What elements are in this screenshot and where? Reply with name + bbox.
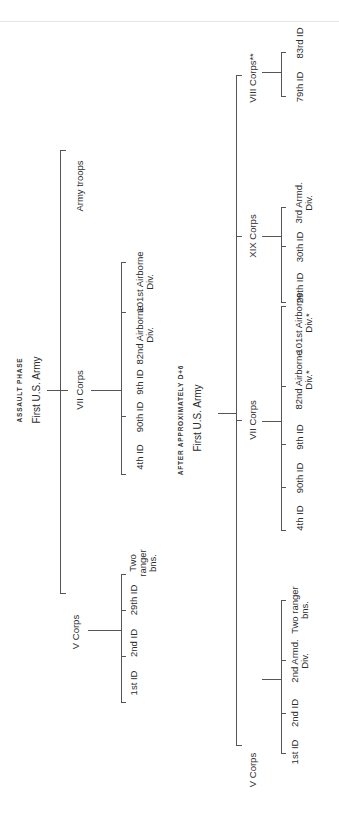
tick xyxy=(281,600,286,601)
unit-82nd-airborne: 82nd AirborneDiv. xyxy=(135,305,155,364)
vii-corps-label: VII Corps xyxy=(75,370,85,410)
unit-9th-id-d6: 9th ID xyxy=(295,424,305,449)
tick xyxy=(121,574,126,575)
tick xyxy=(281,207,286,208)
unit-29th-id: 29th ID xyxy=(129,585,139,616)
unit-83rd-id: 83rd ID xyxy=(295,27,305,58)
tick xyxy=(281,386,286,387)
vii-corps-branch-d6 xyxy=(262,421,281,422)
v-corps-label: V Corps xyxy=(71,615,81,649)
v-corps-branch-d6 xyxy=(262,679,281,680)
page-edge-divider xyxy=(0,21,339,22)
tick xyxy=(281,246,286,247)
tick xyxy=(281,444,286,445)
tick xyxy=(121,262,126,263)
unit-30th-id: 30th ID xyxy=(295,232,305,263)
unit-9th-id: 9th ID xyxy=(135,369,145,394)
v-corps-bracket xyxy=(121,574,122,703)
xix-corps-branch xyxy=(262,236,281,237)
army-trunk-line-d6 xyxy=(236,75,237,746)
army-trunk-line xyxy=(60,150,61,594)
tick xyxy=(281,713,286,714)
tick xyxy=(281,753,286,754)
xix-corps-connector xyxy=(236,236,242,237)
viii-corps-branch xyxy=(262,72,281,73)
tick xyxy=(121,474,126,475)
assault-phase-title: ASSAULT PHASE xyxy=(16,358,23,423)
army-label: First U.S. Army xyxy=(32,356,42,423)
v-corps-connector-d6 xyxy=(236,745,242,746)
army-troops-connector xyxy=(60,150,66,151)
unit-1st-id-d6: 1st ID xyxy=(290,740,300,765)
viii-corps-label: VIII Corps** xyxy=(248,53,258,103)
v-corps-bracket-d6 xyxy=(281,600,282,754)
v-corps-connector xyxy=(60,593,66,594)
unit-79th-id: 79th ID xyxy=(295,72,305,103)
v-corps-label-d6: V Corps xyxy=(248,753,258,787)
unit-2nd-id-d6: 2nd ID xyxy=(290,699,300,727)
tick xyxy=(281,52,286,53)
unit-4th-id-d6: 4th ID xyxy=(295,505,305,530)
xix-corps-label: XIX Corps xyxy=(248,214,258,257)
tick xyxy=(121,702,126,703)
army-troops-label: Army troops xyxy=(75,160,85,211)
vii-corps-label-d6: VII Corps xyxy=(248,400,258,440)
army-label-d6: First U.S. Army xyxy=(193,384,203,451)
viii-corps-bracket xyxy=(281,52,282,96)
viii-corps-connector xyxy=(236,75,242,76)
unit-2nd-armd-div: 2nd Armd.Div. xyxy=(290,639,310,682)
unit-82nd-airborne-d6: 82nd AirborneDiv.* xyxy=(294,350,314,409)
tick xyxy=(121,610,126,611)
xix-corps-bracket xyxy=(281,207,282,302)
tick xyxy=(281,306,286,307)
unit-101st-airborne-d6: 101st AirborneDiv.* xyxy=(294,292,314,353)
army-connector xyxy=(47,390,60,391)
v-corps-branch xyxy=(88,630,121,631)
vii-corps-bracket-d6 xyxy=(281,306,282,531)
tick xyxy=(281,302,286,303)
vii-corps-branch xyxy=(91,390,121,391)
unit-2nd-id: 2nd ID xyxy=(129,629,139,657)
unit-two-ranger-bns: Tworangerbns. xyxy=(128,549,158,576)
unit-1st-id: 1st ID xyxy=(129,671,139,696)
unit-101st-airborne: 101st AirborneDiv. xyxy=(135,251,155,312)
unit-two-ranger-bns-d6: Two rangerbns. xyxy=(290,586,310,634)
tick xyxy=(121,416,126,417)
unit-3rd-armd-div: 3rd Armd.Div. xyxy=(294,182,314,223)
unit-4th-id: 4th ID xyxy=(135,444,145,469)
tick xyxy=(121,312,126,313)
tick xyxy=(281,96,286,97)
tick xyxy=(281,660,286,661)
tick xyxy=(281,530,286,531)
vii-corps-connector xyxy=(60,390,68,391)
vii-corps-connector-d6 xyxy=(236,420,242,421)
vii-corps-bracket xyxy=(121,262,122,475)
tick xyxy=(281,487,286,488)
unit-90th-id: 90th ID xyxy=(135,402,145,433)
army-connector-d6 xyxy=(218,413,236,414)
after-d6-title: AFTER APPROXIMATELY D+6 xyxy=(177,365,184,475)
unit-90th-id-d6: 90th ID xyxy=(295,463,305,494)
tick xyxy=(121,656,126,657)
